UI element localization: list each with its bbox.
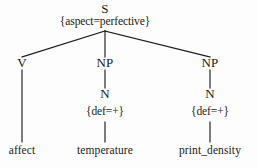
leaf-print-density: print_density [179,145,241,157]
node-np2-category: NP [201,56,218,69]
edge-s-to-np2 [105,31,210,57]
node-v-category: V [17,56,27,69]
node-n1-category: N [100,87,110,100]
leaf-temperature: temperature [77,145,133,157]
node-n1-features: {def=+} [86,106,124,118]
node-s-category: S [101,2,108,15]
syntax-tree-figure: S {aspect=perfective} V NP NP N {def=+} … [0,0,257,168]
node-n2-features: {def=+} [191,106,229,118]
leaf-affect: affect [9,145,36,157]
node-s-features: {aspect=perfective} [60,16,150,28]
node-np1-category: NP [96,56,113,69]
edge-s-to-v [22,31,105,57]
node-n2-category: N [205,87,215,100]
